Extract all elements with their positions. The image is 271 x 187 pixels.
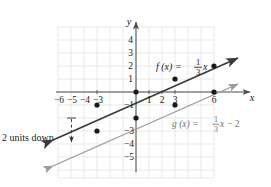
data-point [133, 89, 138, 94]
series-f-label-numerator: 1 [196, 57, 200, 67]
y-tick-label: −3 [124, 126, 134, 136]
y-tick-labels: 4 3 2 1 −1 −3 −4 −5 [124, 35, 134, 162]
x-tick-label: −3 [93, 95, 103, 105]
x-tick-label: 1 [147, 95, 152, 105]
y-tick-label: 2 [128, 61, 133, 71]
data-point [211, 63, 216, 68]
x-tick-label: 2 [160, 95, 165, 105]
y-tick-label: 3 [128, 48, 133, 58]
series-f-label-variable: x [202, 61, 208, 72]
data-point [94, 128, 99, 133]
x-tick-label: −6 [54, 95, 64, 105]
x-tick-label: −4 [80, 95, 90, 105]
graph-figure: −6 −5 −4 −3 1 2 3 6 4 3 2 1 −1 −3 −4 −5 … [0, 0, 271, 187]
units-down-label: 2 units down [2, 132, 54, 143]
y-tick-label: −4 [124, 139, 134, 149]
series-f-label-denominator: 3 [196, 67, 200, 77]
x-tick-label: 6 [212, 95, 217, 105]
data-point [133, 115, 138, 120]
series-f-label-lhs: f (x) = [156, 61, 182, 73]
x-axis-label: x [249, 92, 255, 103]
y-tick-label: 1 [128, 74, 133, 84]
coordinate-plane-svg: −6 −5 −4 −3 1 2 3 6 4 3 2 1 −1 −3 −4 −5 … [0, 0, 271, 187]
data-point [211, 89, 216, 94]
y-tick-label: 4 [128, 35, 133, 45]
x-tick-label: 3 [173, 95, 178, 105]
series-g-label-numerator: 1 [214, 115, 218, 124]
series-g-label-constant: − 2 [227, 119, 240, 129]
y-tick-label: −1 [124, 100, 134, 110]
x-tick-label: −5 [67, 95, 77, 105]
y-axis-label: y [126, 16, 132, 27]
series-g-label-variable: x [219, 119, 225, 129]
y-tick-label: −5 [124, 152, 134, 162]
series-g-label-lhs: g (x) = [172, 119, 198, 130]
data-point [172, 76, 177, 81]
series-g-label-denominator: 3 [214, 125, 218, 134]
